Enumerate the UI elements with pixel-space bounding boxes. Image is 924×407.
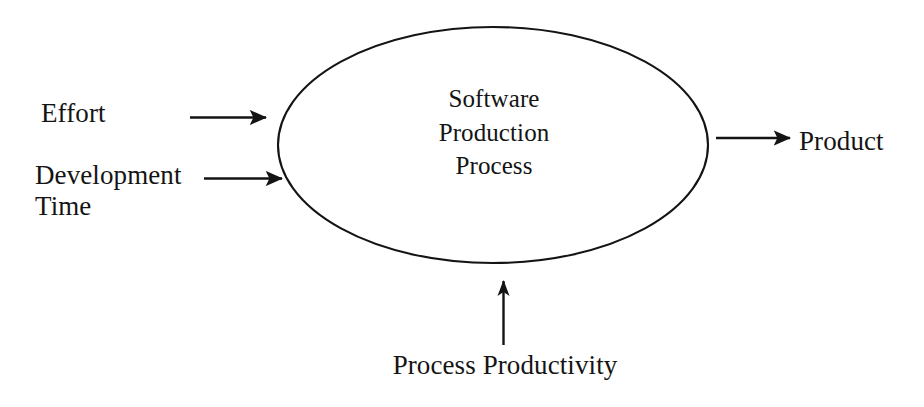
development-line-1: Development <box>35 160 182 190</box>
process-label-line-3: Process <box>455 152 532 179</box>
input-label-development-time: DevelopmentTime <box>35 160 182 223</box>
process-label-line-2: Production <box>439 119 550 146</box>
input-label-process-productivity: Process Productivity <box>345 350 665 381</box>
development-line-2: Time <box>35 191 91 221</box>
output-label-product: Product <box>799 126 884 157</box>
input-label-effort: Effort <box>41 98 106 129</box>
diagram-canvas: Effort DevelopmentTime SoftwareProductio… <box>0 0 924 407</box>
process-label-line-1: Software <box>448 85 539 112</box>
process-ellipse-label: SoftwareProductionProcess <box>363 82 625 183</box>
